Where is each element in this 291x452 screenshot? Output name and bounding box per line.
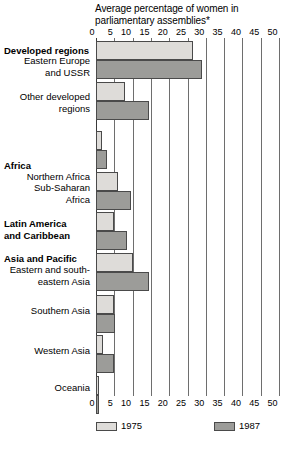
chart-title-line-1: Average percentage of women in: [95, 3, 285, 15]
bar-1975: [96, 295, 114, 314]
x-tick-label-50: 50: [267, 26, 279, 38]
legend-item-1975: 1975: [96, 420, 142, 432]
gridline-50: [279, 38, 280, 396]
category-label-line: Oceania: [0, 382, 90, 394]
x-axis-ticks-top: 05101520253035404550: [96, 26, 291, 38]
legend-swatch-1987: [214, 422, 235, 431]
gridline-40: [242, 38, 243, 396]
x-tick-label-40: 40: [231, 26, 243, 38]
bar-1987: [96, 60, 202, 79]
category-label: Other developedregions: [0, 91, 90, 114]
bar-1987: [96, 150, 107, 169]
x-tick-label-40: 40: [231, 397, 243, 409]
x-tick-label-45: 45: [249, 26, 261, 38]
x-tick-label-35: 35: [213, 397, 225, 409]
category-label-line: Western Asia: [0, 345, 90, 357]
x-axis-ticks-bottom: 05101520253035404550: [96, 397, 291, 409]
bar-1975: [96, 253, 133, 272]
gridline-10: [133, 38, 134, 396]
gridline-30: [206, 38, 207, 396]
bar-1975: [96, 376, 99, 395]
x-tick-label-25: 25: [176, 26, 188, 38]
gridline-45: [261, 38, 262, 396]
category-label-line: Other developed: [0, 91, 90, 103]
x-tick-label-5: 5: [108, 26, 115, 38]
bar-1987: [96, 272, 149, 291]
category-label-line: Africa: [0, 194, 90, 206]
bar-1975: [96, 82, 125, 101]
bar-chart: Average percentage of women in parliamen…: [0, 0, 291, 452]
gridline-15: [151, 38, 152, 396]
gridline-20: [169, 38, 170, 396]
bar-1987: [96, 101, 149, 120]
category-label: Southern Asia: [0, 305, 90, 317]
legend-swatch-1975: [96, 422, 117, 431]
x-tick-label-10: 10: [121, 397, 133, 409]
bar-1975: [96, 131, 102, 150]
legend-item-1987: 1987: [214, 420, 260, 432]
category-label: Oceania: [0, 382, 90, 394]
category-label-line: Northern Africa: [0, 171, 90, 183]
legend-label-1987: 1987: [239, 420, 260, 432]
category-label: Western Asia: [0, 345, 90, 357]
chart-legend: 19751987: [96, 420, 291, 434]
x-tick-label-20: 20: [158, 26, 170, 38]
x-tick-label-15: 15: [139, 397, 151, 409]
x-tick-label-5: 5: [108, 397, 115, 409]
x-tick-label-10: 10: [121, 26, 133, 38]
bar-1975: [96, 335, 103, 354]
category-label-line: Southern Asia: [0, 305, 90, 317]
x-tick-label-0: 0: [89, 26, 96, 38]
x-tick-label-25: 25: [176, 397, 188, 409]
x-tick-label-35: 35: [213, 26, 225, 38]
category-label-line: and USSR: [0, 67, 90, 79]
category-label-line: Eastern Europe: [0, 55, 90, 67]
category-label-line: regions: [0, 103, 90, 115]
bar-1987: [96, 314, 115, 333]
chart-title: Average percentage of women in parliamen…: [95, 3, 285, 27]
category-label-line: Eastern and south-: [0, 264, 90, 276]
x-tick-label-30: 30: [194, 397, 206, 409]
gridline-25: [188, 38, 189, 396]
legend-label-1975: 1975: [121, 420, 142, 432]
gridline-35: [224, 38, 225, 396]
bar-1975: [96, 172, 118, 191]
bar-1987: [96, 191, 131, 210]
bar-1987: [96, 354, 114, 373]
category-label: Eastern and south-eastern Asia: [0, 264, 90, 287]
category-label: Northern Africa: [0, 171, 90, 183]
bar-1987: [96, 395, 99, 414]
bar-1975: [96, 41, 193, 60]
bar-1975: [96, 212, 114, 231]
category-label-line: eastern Asia: [0, 276, 90, 288]
category-label: Eastern Europeand USSR: [0, 55, 90, 78]
bar-1987: [96, 231, 127, 250]
x-tick-label-30: 30: [194, 26, 206, 38]
x-tick-label-20: 20: [158, 397, 170, 409]
x-tick-label-15: 15: [139, 26, 151, 38]
category-label-line: Sub-Saharan: [0, 182, 90, 194]
category-label: Sub-SaharanAfrica: [0, 182, 90, 205]
x-tick-label-50: 50: [267, 397, 279, 409]
x-tick-label-45: 45: [249, 397, 261, 409]
